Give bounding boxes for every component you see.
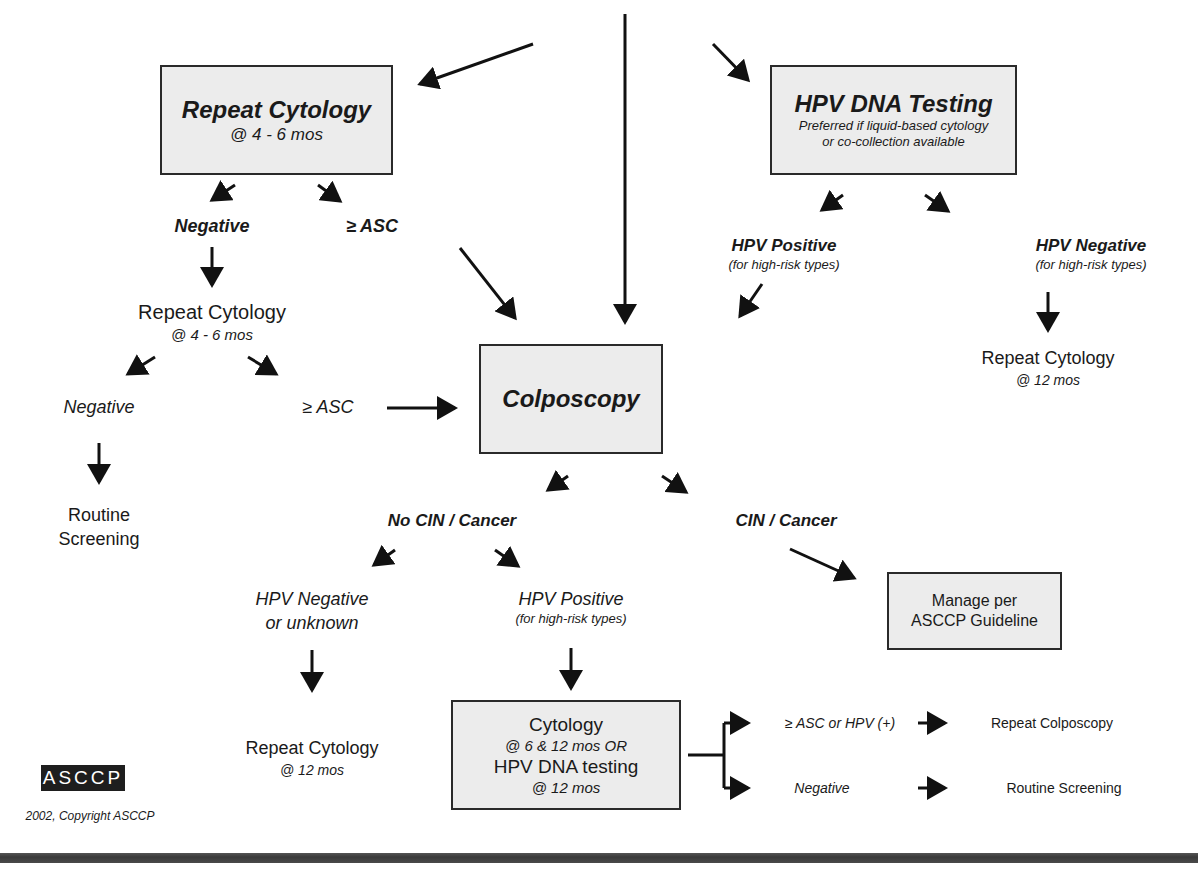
- colposcopy-title: Colposcopy: [502, 385, 639, 413]
- repeat-cytology-subtitle: @ 4 - 6 mos: [230, 124, 323, 145]
- negative-condition-label: Negative: [794, 779, 849, 797]
- cin-cancer-label: CIN / Cancer: [735, 510, 836, 531]
- left-repeat-cytology-sub: @ 4 - 6 mos: [171, 325, 253, 344]
- hpv-positive-label: HPV Positive: [732, 235, 837, 256]
- bottom-bar: [0, 853, 1198, 863]
- bottom-repeat-cytology-sub: @ 12 mos: [280, 761, 344, 779]
- bottom-repeat-cytology-title: Repeat Cytology: [245, 737, 378, 759]
- positive-condition-label: ≥ ASC or HPV (+): [785, 714, 895, 732]
- routine-screening-line-2: Screening: [58, 528, 139, 550]
- followup-line-3: HPV DNA testing: [494, 755, 639, 778]
- right-repeat-cytology-sub: @ 12 mos: [1016, 371, 1080, 389]
- followup-line-2: @ 6 & 12 mos OR: [505, 736, 627, 755]
- left-asc2-label: ≥ ASC: [302, 396, 353, 418]
- hpv-dna-testing-title: HPV DNA Testing: [794, 90, 992, 118]
- manage-line-1: Manage per: [932, 591, 1017, 611]
- manage-per-asccp-box: Manage per ASCCP Guideline: [887, 572, 1062, 650]
- repeat-cytology-box: Repeat Cytology @ 4 - 6 mos: [160, 65, 393, 175]
- hpv-dna-testing-note-1: Preferred if liquid-based cytology: [799, 118, 988, 134]
- hpv-positive-sub: (for high-risk types): [728, 257, 839, 273]
- repeat-cytology-title: Repeat Cytology: [182, 96, 371, 124]
- hpv-negative-sub: (for high-risk types): [1035, 257, 1146, 273]
- followup-line-1: Cytology: [529, 713, 603, 736]
- hpv-dna-testing-note-2: or co-collection available: [822, 134, 964, 150]
- hpv-neg-unknown-line-1: HPV Negative: [255, 588, 368, 610]
- colposcopy-box: Colposcopy: [479, 344, 663, 454]
- no-cin-cancer-label: No CIN / Cancer: [388, 510, 516, 531]
- copyright-text: 2002, Copyright ASCCP: [26, 809, 155, 824]
- routine-screening-line-1: Routine: [68, 504, 130, 526]
- right-repeat-cytology-title: Repeat Cytology: [981, 347, 1114, 369]
- followup-testing-box: Cytology @ 6 & 12 mos OR HPV DNA testing…: [451, 700, 681, 810]
- followup-line-4: @ 12 mos: [532, 778, 601, 797]
- routine-screening-label: Routine Screening: [1006, 779, 1121, 797]
- left-negative2-label: Negative: [63, 396, 134, 418]
- hpv-neg-unknown-line-2: or unknown: [265, 612, 358, 634]
- manage-line-2: ASCCP Guideline: [911, 611, 1038, 631]
- left-repeat-cytology-title: Repeat Cytology: [138, 300, 286, 324]
- asccp-logo: ASCCP: [41, 765, 125, 791]
- hpv-pos-label: HPV Positive: [518, 588, 623, 610]
- hpv-negative-label: HPV Negative: [1036, 235, 1147, 256]
- left-negative-label: Negative: [174, 215, 249, 237]
- hpv-dna-testing-box: HPV DNA Testing Preferred if liquid-base…: [770, 65, 1017, 175]
- repeat-colposcopy-label: Repeat Colposcopy: [991, 714, 1113, 732]
- hpv-pos-sub: (for high-risk types): [515, 611, 626, 627]
- left-asc-label: ≥ ASC: [346, 215, 398, 237]
